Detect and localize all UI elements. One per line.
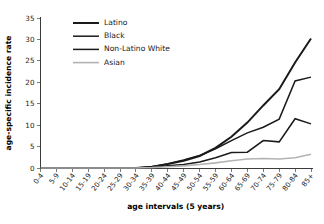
y-tick-label: 5 <box>30 142 35 151</box>
series-line-black <box>41 77 312 168</box>
x-tick-label: 5-9 <box>48 172 61 186</box>
y-tick-label: 30 <box>25 35 35 44</box>
x-tick-label: 45-49 <box>170 172 189 193</box>
x-tick-label: 20-24 <box>90 171 109 192</box>
legend-label-black: Black <box>104 31 125 40</box>
x-tick-label: 60-64 <box>217 171 236 192</box>
x-tick-label: 80-84 <box>281 171 300 192</box>
y-axis-title: age-specific incidence rate <box>4 36 13 151</box>
y-tick-label: 0 <box>30 164 35 173</box>
x-tick-label: 55-59 <box>201 172 220 193</box>
x-tick-label: 75-79 <box>265 172 284 193</box>
legend-label-asian: Asian <box>104 58 125 67</box>
series-line-latino <box>41 39 312 168</box>
x-tick-label: 85+ <box>300 172 315 189</box>
legend-label-non-latino-white: Non-Latino White <box>104 44 170 53</box>
x-tick-label: 0-4 <box>32 171 46 185</box>
y-axis-ticks: 05101520253035 <box>25 14 40 173</box>
x-tick-label: 40-44 <box>154 171 173 192</box>
x-tick-label: 70-74 <box>249 171 268 192</box>
line-chart-svg: 05101520253035 0-45-910-1415-1920-2425-2… <box>0 0 324 224</box>
x-axis-title: age intervals (5 years) <box>127 202 224 211</box>
series-line-non-latino-white <box>41 119 312 168</box>
chart-legend: LatinoBlackNon-Latino WhiteAsian <box>73 18 170 67</box>
x-tick-label: 35-39 <box>138 172 157 193</box>
x-tick-label: 50-54 <box>186 171 205 192</box>
x-tick-label: 30-34 <box>122 171 141 192</box>
x-tick-label: 10-14 <box>58 171 77 192</box>
y-tick-label: 20 <box>25 78 35 87</box>
x-tick-label: 65-69 <box>233 172 252 193</box>
y-tick-label: 15 <box>25 99 34 108</box>
y-tick-label: 35 <box>25 14 34 23</box>
x-axis-ticks: 0-45-910-1415-1920-2425-2930-3435-3940-4… <box>32 168 316 193</box>
x-tick-label: 25-29 <box>106 172 125 193</box>
chart-figure: 05101520253035 0-45-910-1415-1920-2425-2… <box>0 0 324 224</box>
y-tick-label: 10 <box>25 121 35 130</box>
data-series-group <box>41 39 312 168</box>
y-tick-label: 25 <box>25 56 34 65</box>
x-tick-label: 15-19 <box>74 172 93 193</box>
legend-label-latino: Latino <box>104 18 128 27</box>
